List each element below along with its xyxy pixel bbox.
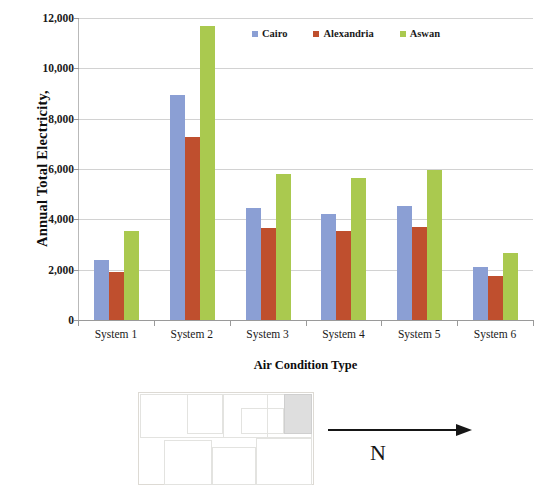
x-axis-category-label: System 2 xyxy=(154,328,230,340)
floorplan-shaded-zone xyxy=(284,394,312,434)
bar-aswan xyxy=(427,170,442,320)
bar-alexandria xyxy=(412,227,427,320)
bar-alexandria xyxy=(109,272,124,320)
legend-label: Aswan xyxy=(410,28,440,39)
bar-group xyxy=(155,18,231,320)
x-axis-tick-mark xyxy=(457,320,458,326)
bar-chart: Annual Total Electricity, 02,0004,0006,0… xyxy=(0,0,542,385)
x-axis-tick-marks xyxy=(78,320,533,326)
legend-label: Alexandria xyxy=(323,28,373,39)
x-axis-title: Air Condition Type xyxy=(78,358,533,373)
x-axis-category-label: System 3 xyxy=(230,328,306,340)
bar-aswan xyxy=(351,178,366,320)
bar-alexandria xyxy=(488,276,503,320)
bar-aswan xyxy=(200,26,215,320)
x-axis-category-label: System 6 xyxy=(457,328,533,340)
bar-cairo xyxy=(321,214,336,320)
legend-swatch-aswan xyxy=(400,31,406,37)
legend-item-alexandria: Alexandria xyxy=(313,28,373,39)
bar-cairo xyxy=(94,260,109,320)
floorplan-room xyxy=(187,394,223,434)
north-arrow-head xyxy=(456,424,472,436)
building-floorplan-diagram xyxy=(138,392,314,485)
north-arrow-shaft xyxy=(328,429,459,431)
bar-alexandria xyxy=(261,228,276,320)
x-axis-category-label: System 5 xyxy=(381,328,457,340)
y-axis-tick-label: 2,000 xyxy=(22,264,74,276)
floorplan-room xyxy=(256,438,312,485)
y-axis-tick-label: 12,000 xyxy=(22,12,74,24)
y-axis-tick-labels: 02,0004,0006,0008,00010,00012,000 xyxy=(22,0,74,340)
floorplan-room xyxy=(212,447,256,485)
y-axis-tick-label: 8,000 xyxy=(22,113,74,125)
floorplan-room xyxy=(241,408,284,434)
y-axis-tick-label: 0 xyxy=(22,314,74,326)
y-axis-tick-label: 4,000 xyxy=(22,213,74,225)
bar-cairo xyxy=(170,95,185,320)
north-arrow-icon xyxy=(328,424,474,436)
bar-group xyxy=(306,18,382,320)
y-axis-tick-label: 10,000 xyxy=(22,62,74,74)
bar-groups xyxy=(79,18,533,320)
x-axis-category-label: System 1 xyxy=(78,328,154,340)
bar-alexandria xyxy=(336,231,351,320)
y-axis-tick-label: 6,000 xyxy=(22,163,74,175)
legend-swatch-cairo xyxy=(252,31,258,37)
bar-cairo xyxy=(246,208,261,320)
x-axis-category-label: System 4 xyxy=(305,328,381,340)
bar-cairo xyxy=(473,267,488,320)
bar-aswan xyxy=(503,253,518,320)
north-label: N xyxy=(370,440,386,466)
bar-aswan xyxy=(276,174,291,320)
x-axis-tick-mark xyxy=(381,320,382,326)
x-axis-tick-mark xyxy=(533,320,534,326)
legend-item-aswan: Aswan xyxy=(400,28,440,39)
figure: Annual Total Electricity, 02,0004,0006,0… xyxy=(0,0,542,485)
legend-swatch-alexandria xyxy=(313,31,319,37)
bar-aswan xyxy=(124,231,139,320)
plot-area xyxy=(78,18,533,320)
legend-label: Cairo xyxy=(262,28,287,39)
x-axis-tick-mark xyxy=(154,320,155,326)
chart-legend: CairoAlexandriaAswan xyxy=(252,28,440,39)
bar-alexandria xyxy=(185,137,200,320)
bar-group xyxy=(457,18,533,320)
x-axis-tick-mark xyxy=(306,320,307,326)
x-axis-tick-mark xyxy=(230,320,231,326)
floorplan-block: N xyxy=(0,388,542,485)
bar-group xyxy=(79,18,155,320)
bar-cairo xyxy=(397,206,412,320)
floorplan-room xyxy=(164,440,212,485)
bar-group xyxy=(382,18,458,320)
bar-group xyxy=(230,18,306,320)
x-axis-category-labels: System 1System 2System 3System 4System 5… xyxy=(78,328,533,340)
x-axis-tick-mark xyxy=(78,320,79,326)
legend-item-cairo: Cairo xyxy=(252,28,287,39)
